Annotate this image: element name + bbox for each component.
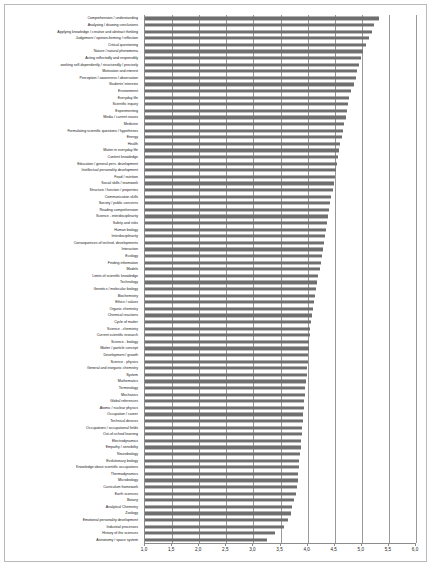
category-label: Social skills / teamwork	[101, 181, 138, 185]
bar	[145, 208, 329, 211]
x-tick-mark	[171, 543, 172, 546]
bar	[145, 30, 372, 33]
category-label: Limits of scientific knowledge	[92, 274, 138, 278]
bar	[145, 380, 306, 383]
category-label: Acting reflectedly and responsibly	[85, 56, 138, 60]
bar	[145, 400, 304, 403]
category-label: Global references	[110, 399, 138, 403]
category-label: Communication skills	[105, 194, 138, 198]
bar	[145, 301, 314, 304]
bar	[145, 327, 310, 330]
bar	[145, 307, 313, 310]
category-label: Analytical Chemistry	[106, 505, 138, 509]
category-label: Mathematics	[118, 379, 138, 383]
category-label: Technical devices	[110, 419, 138, 423]
bar	[145, 188, 333, 191]
category-label: Organic chemistry	[109, 307, 138, 311]
category-label: Content knowledge	[108, 155, 138, 159]
bar	[145, 23, 374, 26]
x-tick-label: 4,0	[303, 547, 309, 552]
category-label: Consequences of technol. developments	[74, 241, 138, 245]
bar	[145, 248, 323, 251]
bar	[145, 268, 320, 271]
bar	[145, 56, 361, 59]
bar	[145, 169, 336, 172]
category-label: Media / current issues	[103, 115, 138, 119]
category-label: Students' interests	[109, 82, 138, 86]
category-label: Environment	[118, 89, 138, 93]
category-label: Current scientific research	[97, 333, 138, 337]
category-label: Zoology	[125, 511, 138, 515]
category-label: Out-of-school learning	[103, 432, 138, 436]
category-label: System	[126, 373, 138, 377]
bar	[145, 439, 301, 442]
category-label: Electrodynamics	[112, 439, 138, 443]
bar	[145, 228, 326, 231]
bar	[145, 175, 335, 178]
bar	[145, 136, 342, 139]
category-label: Technology	[120, 280, 138, 284]
x-tick-mark	[361, 543, 362, 546]
category-label: Medicine	[124, 122, 138, 126]
grid-line	[416, 15, 417, 543]
bar	[145, 485, 297, 488]
bar	[145, 393, 305, 396]
category-label: Terminology	[119, 386, 138, 390]
category-label: Applying knowledge / creative and abstra…	[57, 29, 138, 33]
category-label: Scientific inquiry	[112, 102, 138, 106]
x-tick-mark	[252, 543, 253, 546]
bar	[145, 202, 330, 205]
category-label: Matter in everyday life	[103, 148, 138, 152]
category-label: Society / public concerns	[99, 201, 138, 205]
bar	[145, 215, 328, 218]
category-label: Food / nutrition	[114, 175, 138, 179]
bar	[145, 241, 324, 244]
bar	[145, 452, 300, 455]
category-label: Motivation and interest	[102, 69, 138, 73]
bar	[145, 63, 359, 66]
bar	[145, 221, 327, 224]
bar	[145, 314, 312, 317]
bar	[145, 89, 351, 92]
bar	[145, 479, 298, 482]
category-label: Microbiology	[118, 478, 138, 482]
category-label: Thermodynamics	[111, 472, 138, 476]
category-label: Education / general pers. development	[77, 161, 138, 165]
category-label: Health	[128, 142, 138, 146]
x-tick-label: 3,5	[276, 547, 282, 552]
x-tick-label: 2,0	[195, 547, 201, 552]
category-label: Matter / particle concept	[100, 346, 138, 350]
category-label: Mechanics	[121, 392, 138, 396]
bar	[145, 446, 301, 449]
bar	[145, 472, 298, 475]
bar	[145, 142, 340, 145]
category-label: Genetics / molecular biology	[93, 287, 138, 291]
bar	[145, 261, 321, 264]
category-label: Judgement / opinion-forming / reflection	[76, 36, 138, 40]
category-label: History of the sciences	[102, 531, 138, 535]
category-label: Earth sciences	[115, 491, 138, 495]
bar	[145, 360, 308, 363]
category-label: Occupation / career	[107, 412, 138, 416]
bar	[145, 43, 366, 46]
bar	[145, 426, 302, 429]
category-label: Science - biology	[111, 340, 138, 344]
bar	[145, 182, 334, 185]
category-label: Analysing / drawing conclusions	[88, 23, 138, 27]
category-label: Atomic / nuclear physics	[100, 406, 138, 410]
bar	[145, 254, 322, 257]
category-label: Industrial processes	[106, 524, 138, 528]
category-label: Astronomy / space system	[96, 538, 138, 542]
x-tick-label: 3,0	[249, 547, 255, 552]
category-label: Occupations / occupational fields	[86, 425, 138, 429]
bar	[145, 340, 309, 343]
category-label: Perception / awareness / observation	[80, 76, 138, 80]
bar	[145, 499, 294, 502]
category-label: Chemical reactions	[108, 313, 138, 317]
bar	[145, 353, 308, 356]
bar	[145, 433, 302, 436]
bar	[145, 122, 344, 125]
category-label: Science - interdisciplinarity	[96, 214, 138, 218]
category-label: Knowledge about scientific occupations	[76, 465, 138, 469]
category-label: Biochemistry	[118, 293, 138, 297]
